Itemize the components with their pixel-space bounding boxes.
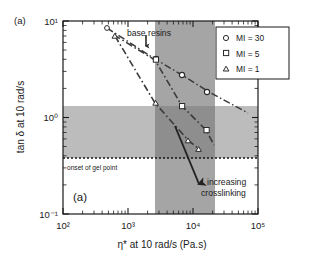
legend-label-mi30: MI = 30 <box>236 33 265 43</box>
legend-marker-circle <box>223 35 228 40</box>
data-point-mi30 <box>204 89 209 94</box>
annotation-crosslinking: crosslinking <box>201 188 246 198</box>
data-point-mi5 <box>180 104 185 109</box>
y-axis-label: tan δ at 10 rad/s <box>15 81 26 153</box>
y-tick-label: 10¹ <box>44 16 58 27</box>
legend-marker-square <box>224 50 229 55</box>
legend: MI = 30 MI = 5 MI = 1 <box>216 27 289 79</box>
panel-label-inner: (a) <box>73 191 87 203</box>
x-tick-label: 10⁴ <box>186 220 201 231</box>
data-point-mi5 <box>153 57 158 62</box>
legend-label-mi1: MI = 1 <box>236 64 260 74</box>
x-tick-label: 10⁵ <box>251 220 266 231</box>
annotation-increasing: increasing <box>207 177 246 187</box>
figure-container: MI = 30 MI = 5 MI = 1 base resins increa… <box>0 0 318 266</box>
chart-svg: MI = 30 MI = 5 MI = 1 base resins increa… <box>0 0 318 266</box>
data-point-mi30 <box>105 26 110 31</box>
x-axis-label: η* at 10 rad/s (Pa.s) <box>118 239 207 250</box>
annotation-onset-of-gel-point: onset of gel point <box>67 164 117 172</box>
data-point-mi5 <box>204 128 209 133</box>
data-point-mi30 <box>179 72 184 77</box>
y-tick-label: 10⁻¹ <box>39 209 58 220</box>
annotation-base-resins: base resins <box>127 28 171 38</box>
x-tick-label: 10³ <box>121 220 135 231</box>
x-tick-label: 10² <box>56 220 70 231</box>
legend-label-mi5: MI = 5 <box>236 49 260 59</box>
panel-label-outer: (a) <box>14 15 26 26</box>
y-tick-label: 10⁰ <box>43 112 58 123</box>
